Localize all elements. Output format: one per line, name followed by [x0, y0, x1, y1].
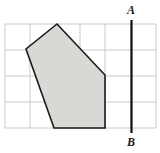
label-b: B	[124, 136, 138, 148]
figure-canvas	[0, 0, 160, 153]
geometry-figure: A B	[0, 0, 160, 153]
label-a: A	[124, 4, 138, 16]
